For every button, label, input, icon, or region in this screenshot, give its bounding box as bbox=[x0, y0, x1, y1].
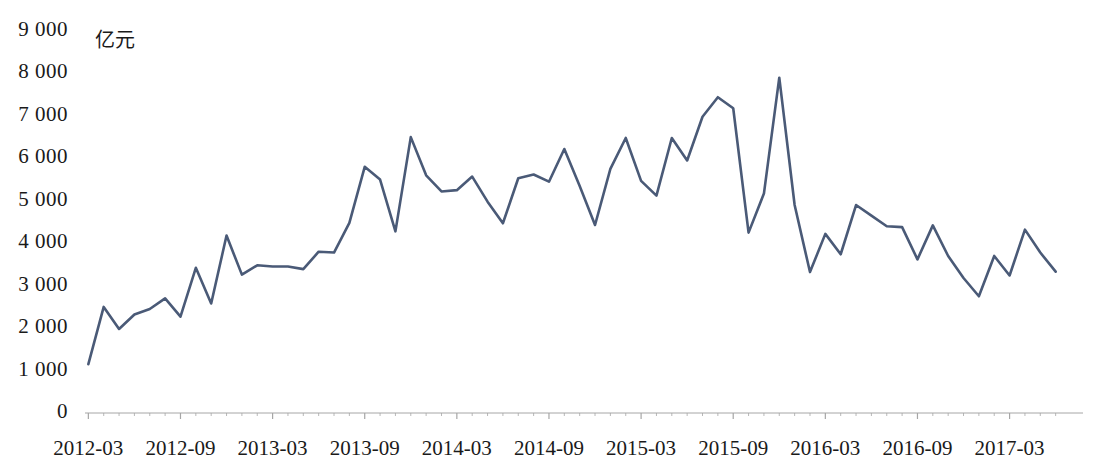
data-series-line bbox=[88, 78, 1055, 365]
x-axis bbox=[85, 413, 1083, 419]
plot-area bbox=[0, 0, 1093, 463]
line-chart: 亿元 9 0008 0007 0006 0005 0004 0003 0002 … bbox=[0, 0, 1093, 463]
